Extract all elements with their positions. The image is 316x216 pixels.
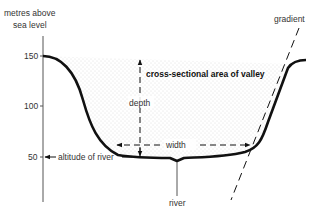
depth-label: depth	[129, 98, 151, 108]
tick-label-150: 150	[24, 51, 38, 61]
valley-cross-section-diagram: metres above sea level 150 100 50 depth …	[0, 0, 316, 216]
gradient-label: gradient	[274, 14, 305, 24]
river-label: river	[169, 198, 186, 208]
tick-label-50: 50	[28, 152, 38, 162]
area-label: cross-sectional area of valley	[146, 69, 265, 79]
axis-label-line2: sea level	[13, 20, 47, 30]
tick-label-100: 100	[24, 101, 38, 111]
axis-label-line1: metres above	[4, 8, 56, 18]
altitude-label: altitude of river	[58, 152, 114, 162]
width-label: width	[165, 140, 186, 150]
